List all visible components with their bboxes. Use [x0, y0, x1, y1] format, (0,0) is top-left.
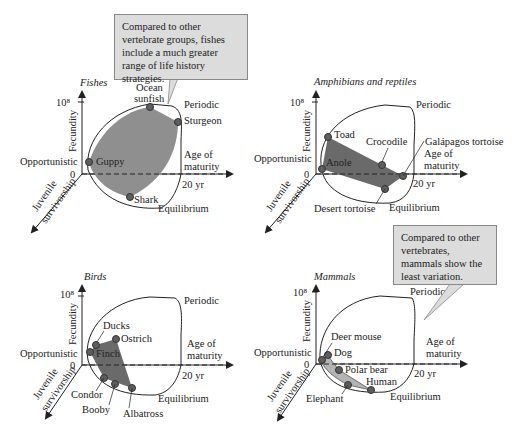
svg-text:Ostrich: Ostrich	[121, 333, 153, 344]
svg-text:Age of: Age of	[424, 148, 453, 159]
corner-opportunistic: Opportunistic	[20, 156, 78, 167]
svg-text:Equilibrium: Equilibrium	[389, 202, 440, 213]
svg-text:10⁸: 10⁸	[293, 287, 308, 298]
point-guppy	[86, 159, 93, 166]
panel-title: Birds	[84, 271, 106, 282]
svg-text:Equilibrium: Equilibrium	[390, 391, 441, 402]
svg-text:Dog: Dog	[334, 347, 353, 358]
point-shark	[127, 194, 134, 201]
svg-text:Periodic: Periodic	[416, 99, 451, 110]
svg-text:Booby: Booby	[82, 404, 111, 415]
svg-text:sunfish: sunfish	[134, 93, 165, 104]
panel-fishes: Fishes 10⁸ 0 Fecundity Age of maturity 2…	[20, 77, 232, 232]
svg-text:Equilibrium: Equilibrium	[158, 393, 209, 404]
fishes-range	[89, 107, 178, 197]
y-axis-label: Fecundity	[67, 109, 78, 152]
svg-text:maturity: maturity	[184, 161, 220, 172]
x-axis-label: Age of	[184, 149, 213, 160]
svg-text:Opportunistic: Opportunistic	[20, 348, 78, 359]
svg-text:Toad: Toad	[334, 129, 356, 140]
panel-title: Mammals	[313, 271, 355, 282]
svg-text:Human: Human	[366, 376, 398, 387]
svg-text:Ducks: Ducks	[103, 320, 130, 331]
svg-text:maturity: maturity	[424, 160, 460, 171]
svg-text:Condor: Condor	[71, 389, 103, 400]
svg-text:maturity: maturity	[187, 350, 223, 361]
callout-fishes: Compared to other vertebrate groups, fis…	[114, 14, 248, 80]
svg-text:Deer mouse: Deer mouse	[331, 331, 382, 342]
panel-title: Fishes	[79, 77, 107, 88]
svg-text:Guppy: Guppy	[96, 156, 125, 167]
svg-text:maturity: maturity	[426, 348, 462, 359]
svg-text:Albatross: Albatross	[123, 408, 163, 419]
svg-text:Periodic: Periodic	[184, 295, 219, 306]
svg-text:Age of: Age of	[187, 338, 216, 349]
svg-text:Periodic: Periodic	[410, 286, 445, 297]
svg-text:Sturgeon: Sturgeon	[184, 115, 222, 126]
panel-title: Amphibians and reptiles	[313, 76, 416, 87]
x-tick-label: 20 yr	[182, 179, 204, 190]
callout-pointer	[168, 78, 178, 104]
svg-text:Opportunistic: Opportunistic	[254, 347, 312, 358]
svg-text:Finch: Finch	[96, 348, 121, 359]
life-history-diagram: Fishes 10⁸ 0 Fecundity Age of maturity 2…	[0, 0, 518, 441]
svg-text:Anole: Anole	[326, 157, 352, 168]
svg-text:Fecundity: Fecundity	[301, 299, 312, 342]
svg-text:20 yr: 20 yr	[414, 368, 436, 379]
corner-periodic: Periodic	[184, 99, 219, 110]
callout-mammals: Compared to other vertebrates, mammals s…	[393, 225, 497, 285]
panel-amphibians: Amphibians and reptiles 10⁸ 0 Fecundity …	[254, 76, 504, 232]
diagram-canvas: Fishes 10⁸ 0 Fecundity Age of maturity 2…	[0, 0, 518, 441]
y-max-label: 10⁸	[56, 97, 71, 108]
panel-mammals: Mammals 10⁸ 0 Fecundity Age of maturity …	[254, 271, 466, 420]
svg-text:Crocodile: Crocodile	[366, 136, 408, 147]
svg-text:Polar bear: Polar bear	[345, 364, 388, 375]
svg-text:Fecundity: Fecundity	[301, 109, 312, 152]
point-ocean-sunfish	[147, 104, 154, 111]
svg-text:20 yr: 20 yr	[413, 178, 435, 189]
svg-text:10⁸: 10⁸	[60, 289, 75, 300]
svg-text:10⁸: 10⁸	[290, 97, 305, 108]
svg-text:Opportunistic: Opportunistic	[254, 153, 312, 164]
svg-text:Desert tortoise: Desert tortoise	[314, 203, 376, 214]
svg-text:20 yr: 20 yr	[182, 370, 204, 381]
svg-text:Galápagos tortoise: Galápagos tortoise	[425, 136, 504, 147]
point-sturgeon	[175, 119, 182, 126]
svg-text:Age of: Age of	[426, 336, 455, 347]
svg-text:Shark: Shark	[134, 194, 159, 205]
svg-text:Elephant: Elephant	[306, 393, 343, 404]
panel-birds: Birds 10⁸ 0 Fecundity Age of maturity 20…	[20, 271, 232, 419]
svg-text:Fecundity: Fecundity	[67, 302, 78, 345]
